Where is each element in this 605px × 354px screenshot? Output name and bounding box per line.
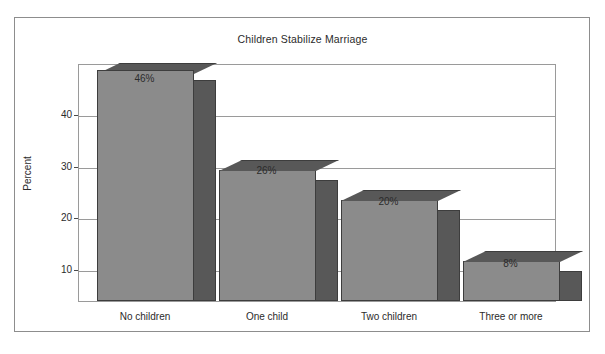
x-category-label-1: No children <box>85 311 205 322</box>
bar-value-label-2: 26% <box>218 165 315 176</box>
bar-side-face-3 <box>437 210 460 301</box>
y-tick-label-40: 40 <box>38 109 72 120</box>
bar-side-face-4 <box>559 271 582 301</box>
bar-no-children[interactable] <box>97 63 215 301</box>
chart-figure: Children Stabilize Marriage Percent 10 2… <box>0 0 605 354</box>
y-axis-label: Percent <box>22 134 33 214</box>
bar-value-label-1: 46% <box>96 73 193 84</box>
bar-front-face-1 <box>97 70 194 301</box>
bar-value-label-4: 8% <box>462 258 559 269</box>
bar-value-label-3: 20% <box>340 196 437 207</box>
bar-front-face-2 <box>219 170 316 301</box>
bar-side-face-2 <box>315 180 338 301</box>
y-tick-label-10: 10 <box>38 264 72 275</box>
y-tick-label-30: 30 <box>38 161 72 172</box>
bar-one-child[interactable] <box>219 63 337 301</box>
bar-front-face-3 <box>341 200 438 301</box>
x-category-label-4: Three or more <box>451 311 571 322</box>
bar-two-children[interactable] <box>341 63 459 301</box>
y-tick-label-20: 20 <box>38 212 72 223</box>
x-category-label-2: One child <box>207 311 327 322</box>
x-category-label-3: Two children <box>329 311 449 322</box>
chart-title: Children Stabilize Marriage <box>0 33 605 45</box>
bar-side-face-1 <box>193 80 216 301</box>
